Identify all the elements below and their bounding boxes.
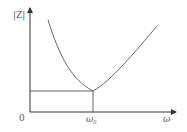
omega0-label: ω0 — [86, 114, 97, 125]
x-axis-label: ω — [163, 114, 171, 124]
y-axis-label: |Z| — [13, 10, 25, 21]
impedance-diagram: |Z| 0 ω0 ω — [0, 0, 187, 132]
origin-label: 0 — [19, 113, 25, 123]
impedance-curve — [48, 20, 157, 91]
